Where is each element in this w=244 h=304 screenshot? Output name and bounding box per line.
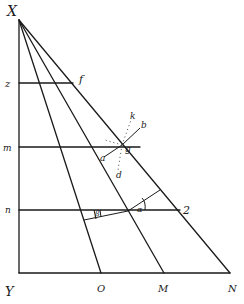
label-alpha: α: [137, 205, 143, 214]
label-m: m: [3, 143, 12, 153]
label-g: g: [125, 144, 131, 154]
label-k: k: [130, 111, 135, 121]
label-N: N: [227, 283, 238, 294]
label-beta: β: [94, 209, 100, 218]
label-f: f: [78, 73, 85, 86]
label-d: d: [116, 170, 122, 180]
label-b: b: [141, 120, 147, 130]
label-two: 2: [182, 204, 190, 217]
label-X: X: [6, 3, 18, 19]
tick-beta-2: [100, 210, 101, 217]
geometric-diagram: X Y O M N z f m n a g k b d β α 2: [0, 0, 244, 304]
label-n: n: [5, 205, 11, 215]
dotted-g-d: [118, 145, 122, 170]
label-M: M: [157, 283, 169, 294]
label-Y: Y: [5, 284, 15, 299]
segment-beta-ray: [84, 211, 128, 220]
label-a: a: [100, 153, 105, 163]
label-z: z: [4, 78, 11, 89]
label-O: O: [97, 283, 105, 294]
